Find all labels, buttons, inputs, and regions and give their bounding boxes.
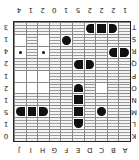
grid-cell-HO[interactable] <box>37 82 49 94</box>
grid-cell-BO[interactable] <box>107 82 119 94</box>
grid-cell-AT[interactable] <box>118 22 130 34</box>
grid-cell-JP[interactable] <box>14 70 26 82</box>
grid-cell-EN[interactable] <box>72 93 84 105</box>
grid-cell-JS[interactable] <box>14 34 26 46</box>
grid-cell-DM[interactable] <box>84 105 96 117</box>
grid-cell-HP[interactable] <box>37 70 49 82</box>
grid-cell-DQ[interactable] <box>84 58 96 70</box>
grid-cell-CP[interactable] <box>95 70 107 82</box>
grid-cell-CQ[interactable] <box>95 58 107 70</box>
grid-cell-GM[interactable] <box>49 105 61 117</box>
grid-cell-BQ[interactable] <box>107 58 119 70</box>
grid-cell-DT[interactable] <box>84 22 96 34</box>
grid-cell-JL[interactable] <box>14 117 26 129</box>
grid-cell-AL[interactable] <box>118 117 130 129</box>
grid-cell-IL[interactable] <box>26 117 38 129</box>
grid-cell-JM[interactable] <box>14 105 26 117</box>
grid-cell-GR[interactable] <box>49 46 61 58</box>
grid-cell-CO[interactable] <box>95 82 107 94</box>
grid-cell-AP[interactable] <box>118 70 130 82</box>
grid-cell-EL[interactable] <box>72 117 84 129</box>
grid-cell-GK[interactable] <box>49 129 61 141</box>
grid-cell-GP[interactable] <box>49 70 61 82</box>
grid-cell-IN[interactable] <box>26 93 38 105</box>
grid-cell-HQ[interactable] <box>37 58 49 70</box>
grid-cell-AK[interactable] <box>118 129 130 141</box>
grid-cell-DO[interactable] <box>84 82 96 94</box>
grid-cell-FM[interactable] <box>60 105 72 117</box>
grid-cell-FQ[interactable] <box>60 58 72 70</box>
grid-cell-GT[interactable] <box>49 22 61 34</box>
grid-cell-FL[interactable] <box>60 117 72 129</box>
grid-cell-DN[interactable] <box>84 93 96 105</box>
grid-cell-GO[interactable] <box>49 82 61 94</box>
grid-cell-FN[interactable] <box>60 93 72 105</box>
grid-cell-CM[interactable] <box>95 105 107 117</box>
grid-cell-HR[interactable] <box>37 46 49 58</box>
grid-cell-EP[interactable] <box>72 70 84 82</box>
grid-cell-CR[interactable] <box>95 46 107 58</box>
grid-cell-HM[interactable] <box>37 105 49 117</box>
grid-cell-ES[interactable] <box>72 34 84 46</box>
grid-cell-IM[interactable] <box>26 105 38 117</box>
grid-cell-HK[interactable] <box>37 129 49 141</box>
grid-cell-FS[interactable] <box>60 34 72 46</box>
grid-cell-BP[interactable] <box>107 70 119 82</box>
grid-cell-BL[interactable] <box>107 117 119 129</box>
grid-cell-AR[interactable] <box>118 46 130 58</box>
grid-cell-CL[interactable] <box>95 117 107 129</box>
grid-cell-GS[interactable] <box>49 34 61 46</box>
grid-cell-IK[interactable] <box>26 129 38 141</box>
grid-cell-AS[interactable] <box>118 34 130 46</box>
grid-cell-IR[interactable] <box>26 46 38 58</box>
grid-cell-ER[interactable] <box>72 46 84 58</box>
grid-cell-DP[interactable] <box>84 70 96 82</box>
grid-cell-JO[interactable] <box>14 82 26 94</box>
grid-cell-HS[interactable] <box>37 34 49 46</box>
grid-cell-FR[interactable] <box>60 46 72 58</box>
grid-cell-HN[interactable] <box>37 93 49 105</box>
grid-cell-AM[interactable] <box>118 105 130 117</box>
grid-cell-DR[interactable] <box>84 46 96 58</box>
grid-cell-DS[interactable] <box>84 34 96 46</box>
grid-cell-BK[interactable] <box>107 129 119 141</box>
grid-cell-CT[interactable] <box>95 22 107 34</box>
grid-cell-BT[interactable] <box>107 22 119 34</box>
grid-cell-JN[interactable] <box>14 93 26 105</box>
grid-cell-BS[interactable] <box>107 34 119 46</box>
grid-cell-BM[interactable] <box>107 105 119 117</box>
grid-cell-FK[interactable] <box>60 129 72 141</box>
grid-cell-JR[interactable] <box>14 46 26 58</box>
grid-cell-GQ[interactable] <box>49 58 61 70</box>
grid-cell-JQ[interactable] <box>14 58 26 70</box>
grid-cell-EO[interactable] <box>72 82 84 94</box>
grid-cell-FP[interactable] <box>60 70 72 82</box>
grid-cell-IT[interactable] <box>26 22 38 34</box>
grid-cell-EM[interactable] <box>72 105 84 117</box>
grid-cell-GN[interactable] <box>49 93 61 105</box>
grid-cell-FT[interactable] <box>60 22 72 34</box>
grid-cell-AN[interactable] <box>118 93 130 105</box>
grid-cell-IP[interactable] <box>26 70 38 82</box>
grid-cell-FO[interactable] <box>60 82 72 94</box>
grid-cell-DK[interactable] <box>84 129 96 141</box>
grid-cell-IS[interactable] <box>26 34 38 46</box>
grid-cell-CK[interactable] <box>95 129 107 141</box>
grid-cell-EK[interactable] <box>72 129 84 141</box>
grid-cell-AQ[interactable] <box>118 58 130 70</box>
grid-cell-GL[interactable] <box>49 117 61 129</box>
grid-cell-JT[interactable] <box>14 22 26 34</box>
grid-cell-ET[interactable] <box>72 22 84 34</box>
grid-cell-EQ[interactable] <box>72 58 84 70</box>
grid-cell-DL[interactable] <box>84 117 96 129</box>
grid-cell-BN[interactable] <box>107 93 119 105</box>
grid-cell-BR[interactable] <box>107 46 119 58</box>
grid-cell-CS[interactable] <box>95 34 107 46</box>
grid-cell-HT[interactable] <box>37 22 49 34</box>
grid-cell-IO[interactable] <box>26 82 38 94</box>
grid-cell-HL[interactable] <box>37 117 49 129</box>
grid-cell-CN[interactable] <box>95 93 107 105</box>
grid-cell-IQ[interactable] <box>26 58 38 70</box>
grid-cell-JK[interactable] <box>14 129 26 141</box>
grid-cell-AO[interactable] <box>118 82 130 94</box>
